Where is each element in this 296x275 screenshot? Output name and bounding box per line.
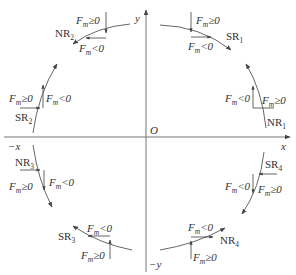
sr3-label: SR3 [58,230,75,245]
sr2-label: SR2 [15,111,32,126]
sr1-label: SR1 [226,30,243,45]
sr1-fm-ge-label: Fm≥0 [195,14,220,29]
sr3-fm-lt-label: Fm<0 [86,222,113,237]
y-axis-label: y [134,12,140,24]
sr4-label: SR4 [265,158,282,173]
sr4-fm-ge-label: Fm≥0 [257,183,282,198]
circular-interpolation-diagram: O x −x y −y Fm≥0 Fm<0 SR1 Fm<0 Fm≥0 NR1 … [0,0,296,275]
arc-sr1: Fm≥0 Fm<0 SR1 [160,12,243,55]
nr3-fm-lt-label: Fm<0 [48,176,75,191]
arc-nr1: Fm<0 Fm≥0 NR1 [224,64,286,131]
nr1-label: NR1 [267,116,286,131]
sr1-fm-lt-label: Fm<0 [187,40,214,55]
nr3-fm-ge-label: Fm≥0 [8,180,33,195]
nr4-fm-lt-label: Fm<0 [187,221,214,236]
diagram-canvas: O x −x y −y Fm≥0 Fm<0 SR1 Fm<0 Fm≥0 NR1 … [0,0,296,275]
arc-nr2: Fm≥0 Fm<0 NR2 [55,12,130,57]
nr1-fm-lt-label: Fm<0 [224,92,251,107]
sr4-fm-lt-label: Fm<0 [224,180,251,195]
sr2-fm-ge-label: Fm≥0 [8,92,33,107]
arc-sr3: Fm<0 SR3 Fm≥0 [58,222,132,264]
neg-x-axis-label: −x [8,140,20,152]
arc-nr4: Fm<0 NR4 Fm≥0 [160,221,239,266]
nr3-label: NR3 [15,156,34,171]
nr4-fm-ge-label: Fm≥0 [192,251,217,266]
arc-nr3: NR3 Fm≥0 Fm<0 [8,145,75,207]
nr2-fm-lt-label: Fm<0 [78,42,105,57]
x-axis-label: x [280,140,286,152]
nr1-fm-ge-label: Fm≥0 [261,94,286,109]
nr2-label: NR2 [55,27,74,42]
arc-sr4: SR4 Fm<0 Fm≥0 [224,152,282,214]
sr3-fm-ge-label: Fm≥0 [80,249,105,264]
sr2-fm-lt-label: Fm<0 [45,92,72,107]
neg-y-axis-label: −y [149,258,161,270]
arc-sr2: Fm≥0 Fm<0 SR2 [8,64,72,133]
nr2-fm-ge-label: Fm≥0 [75,14,100,29]
origin-label: O [150,124,158,136]
nr4-label: NR4 [220,234,239,249]
